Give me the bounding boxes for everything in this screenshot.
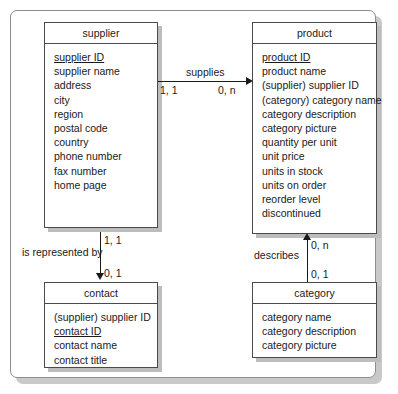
attribute-row: product name (262, 64, 376, 78)
er-diagram-canvas: supplier supplier ID supplier name addre… (0, 0, 398, 394)
attribute-row: contact title (54, 353, 157, 367)
connector-is-represented-by-arrowhead (96, 273, 104, 280)
entity-supplier-attributes: supplier ID supplier name address city r… (45, 44, 157, 196)
connector-supplies-arrowhead (246, 77, 253, 85)
connector-supplies-line (158, 81, 247, 82)
attribute-row: (category) category name (262, 93, 376, 107)
attribute-row: (supplier) supplier ID (262, 78, 376, 92)
attribute-row: category name (262, 310, 376, 324)
entity-contact[interactable]: contact (supplier) supplier ID contact I… (44, 282, 158, 368)
entity-supplier-title: supplier (45, 23, 157, 44)
attribute-row: contact ID (54, 324, 157, 338)
attribute-row: city (54, 93, 157, 107)
attribute-row: quantity per unit (262, 135, 376, 149)
attribute-row: (supplier) supplier ID (54, 310, 157, 324)
attribute-row: address (54, 78, 157, 92)
attribute-row: category description (262, 324, 376, 338)
attribute-row: phone number (54, 149, 157, 163)
cardinality-supplies-target: 0, n (218, 84, 236, 96)
relationship-label-is-represented-by: is represented by (22, 246, 103, 258)
attribute-row: fax number (54, 164, 157, 178)
attribute-row: region (54, 107, 157, 121)
cardinality-is-represented-by-target: 0, 1 (104, 267, 122, 279)
attribute-row: home page (54, 178, 157, 192)
attribute-row: discontinued (262, 206, 376, 220)
entity-contact-title: contact (45, 283, 157, 304)
attribute-row: reorder level (262, 192, 376, 206)
entity-product[interactable]: product product ID product name (supplie… (252, 22, 377, 234)
cardinality-supplies-source: 1, 1 (160, 84, 178, 96)
attribute-row: units in stock (262, 164, 376, 178)
entity-product-attributes: product ID product name (supplier) suppl… (253, 44, 376, 224)
entity-contact-attributes: (supplier) supplier ID contact ID contac… (45, 304, 157, 371)
attribute-row: category description (262, 107, 376, 121)
attribute-row: supplier name (54, 64, 157, 78)
entity-category-attributes: category name category description categ… (253, 304, 376, 357)
attribute-row: contact name (54, 338, 157, 352)
entity-category[interactable]: category category name category descript… (252, 282, 377, 358)
entity-supplier[interactable]: supplier supplier ID supplier name addre… (44, 22, 158, 228)
attribute-row: supplier ID (54, 50, 157, 64)
cardinality-describes-target: 0, 1 (311, 268, 329, 280)
attribute-row: postal code (54, 121, 157, 135)
relationship-label-describes: describes (254, 249, 299, 261)
cardinality-is-represented-by-source: 1, 1 (104, 234, 122, 246)
attribute-row: category picture (262, 121, 376, 135)
relationship-label-supplies: supplies (186, 66, 225, 78)
attribute-row: category picture (262, 338, 376, 352)
attribute-row: product ID (262, 50, 376, 64)
attribute-row: units on order (262, 178, 376, 192)
cardinality-describes-source: 0, n (311, 239, 329, 251)
attribute-row: unit price (262, 149, 376, 163)
attribute-row: country (54, 135, 157, 149)
entity-product-title: product (253, 23, 376, 44)
connector-describes-arrowhead (303, 233, 311, 240)
entity-category-title: category (253, 283, 376, 304)
connector-describes-line (307, 238, 308, 282)
